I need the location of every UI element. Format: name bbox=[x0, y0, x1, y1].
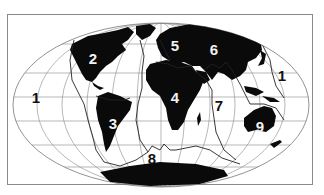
plate-label-7: 7 bbox=[215, 98, 223, 113]
greenland bbox=[136, 24, 156, 40]
plate-label-6: 6 bbox=[210, 42, 218, 57]
plate-label-2: 2 bbox=[89, 51, 97, 66]
plate-label-1-west: 1 bbox=[32, 90, 40, 105]
plate-label-4: 4 bbox=[171, 90, 179, 105]
plate-label-5: 5 bbox=[171, 38, 179, 53]
plate-label-9: 9 bbox=[256, 119, 264, 134]
plate-label-1-east: 1 bbox=[278, 68, 286, 83]
plate-label-3: 3 bbox=[109, 116, 117, 131]
world-map bbox=[0, 0, 324, 195]
plate-label-8: 8 bbox=[148, 151, 156, 166]
north-america bbox=[70, 27, 134, 82]
